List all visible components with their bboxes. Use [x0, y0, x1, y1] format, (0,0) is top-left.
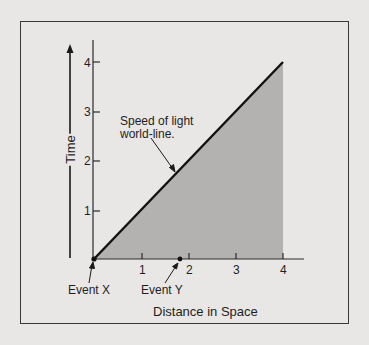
event-y-label: Event Y — [141, 283, 183, 297]
y-tick-label-2: 2 — [84, 154, 91, 168]
time-axis-label: Time — [63, 133, 78, 165]
x-tick-label-2: 2 — [186, 263, 193, 277]
light-line-label-2: world-line. — [120, 127, 175, 141]
y-ticks — [93, 62, 100, 211]
event-y-dot — [178, 257, 183, 262]
event-x-dot — [91, 256, 96, 261]
light-line-label-1: Speed of light — [120, 114, 193, 128]
y-tick-label-4: 4 — [84, 56, 91, 70]
time-arrow-head-icon — [67, 44, 74, 53]
x-tick-label-3: 3 — [233, 263, 240, 277]
y-tick-label-1: 1 — [84, 204, 91, 218]
spacetime-diagram — [0, 0, 369, 345]
x-tick-label-4: 4 — [280, 263, 287, 277]
x-tick-label-1: 1 — [139, 263, 146, 277]
event-x-label: Event X — [68, 283, 110, 297]
y-tick-label-3: 3 — [84, 105, 91, 119]
distance-axis-label: Distance in Space — [153, 305, 258, 319]
